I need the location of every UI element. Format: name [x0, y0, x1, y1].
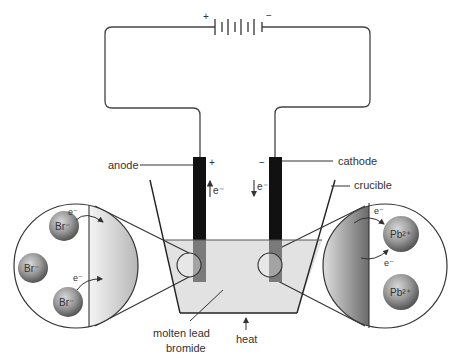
anode-electron-label: e⁻: [213, 185, 224, 196]
electron-label: e⁻: [73, 273, 83, 283]
anode-electrode: [193, 157, 206, 240]
molten-label-line2: bromide: [166, 342, 206, 354]
lead-ion-label: Pb²⁺: [390, 229, 411, 240]
battery-positive-sign: +: [203, 11, 209, 22]
bromide-ion-label: Br⁻: [59, 297, 74, 308]
circuit-wires: [105, 27, 370, 157]
cathode-inset: Pb²⁺ Pb²⁺ e⁻ e⁻: [320, 200, 447, 340]
cathode-focus-circle: [258, 253, 282, 277]
electron-label: e⁻: [374, 206, 384, 216]
battery-icon: [215, 19, 262, 35]
anode-label: anode: [108, 159, 139, 171]
molten-label-line1: molten lead: [153, 327, 210, 339]
cathode-electrode: [269, 157, 282, 240]
electron-label: e⁻: [68, 207, 78, 217]
anode-inset: Br⁻ Br⁻ Br⁻ e⁻ e⁻: [14, 200, 149, 340]
heat-label: heat: [236, 333, 257, 345]
cathode-electron-label: e⁻: [257, 181, 268, 192]
crucible-label: crucible: [354, 179, 392, 191]
electron-label: e⁻: [384, 258, 394, 268]
lead-ion-label: Pb²⁺: [390, 287, 411, 298]
cathode-label: cathode: [338, 155, 377, 167]
anode-focus-circle: [177, 253, 201, 277]
cathode-sign: −: [259, 157, 265, 168]
electrolysis-diagram: + − + − e⁻ e⁻ anode cathode crucible mol…: [0, 0, 460, 362]
bromide-ion-label: Br⁻: [24, 263, 39, 274]
bromide-ion-label: Br⁻: [55, 221, 70, 232]
anode-sign: +: [209, 157, 215, 168]
battery-negative-sign: −: [266, 10, 272, 21]
